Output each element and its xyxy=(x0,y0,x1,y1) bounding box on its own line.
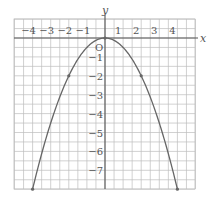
svg-text:−4: −4 xyxy=(88,109,103,120)
svg-text:−3: −3 xyxy=(88,90,103,101)
svg-text:2: 2 xyxy=(133,25,139,36)
svg-text:3: 3 xyxy=(151,25,157,36)
svg-text:−2: −2 xyxy=(57,25,72,36)
svg-text:−7: −7 xyxy=(88,165,103,176)
svg-text:−2: −2 xyxy=(88,71,103,82)
x-axis-label: x xyxy=(200,32,207,45)
svg-text:−6: −6 xyxy=(88,146,103,157)
svg-text:−1: −1 xyxy=(88,52,103,63)
svg-text:−3: −3 xyxy=(39,25,54,36)
svg-text:−1: −1 xyxy=(76,25,91,36)
parabola-chart: −4−3−2−11234−1−2−3−4−5−6−7 x y O xyxy=(0,0,216,201)
y-axis-label: y xyxy=(101,4,109,17)
svg-text:4: 4 xyxy=(169,25,175,36)
origin-label: O xyxy=(95,42,103,53)
svg-text:−4: −4 xyxy=(21,25,36,36)
svg-text:−5: −5 xyxy=(88,128,103,139)
svg-text:1: 1 xyxy=(115,25,121,36)
